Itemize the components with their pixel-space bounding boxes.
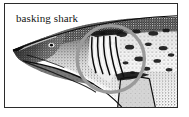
shark-eye bbox=[48, 43, 54, 47]
specimen-label: basking shark bbox=[16, 12, 78, 24]
figure-root: basking shark bbox=[0, 0, 189, 117]
figure-frame: basking shark bbox=[4, 3, 178, 108]
